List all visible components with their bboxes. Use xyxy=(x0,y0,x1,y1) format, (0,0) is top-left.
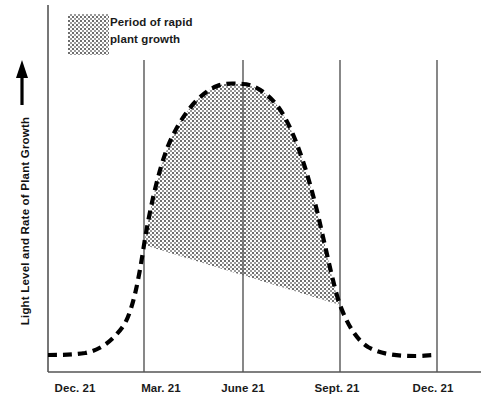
legend-swatch-stipple xyxy=(68,14,109,55)
x-tick-label-3: Sept. 21 xyxy=(315,382,360,394)
x-tick-label-0: Dec. 21 xyxy=(55,382,96,394)
chart-plot-area xyxy=(0,0,491,413)
x-tick-label-1: Mar. 21 xyxy=(141,382,181,394)
legend-label-growth-line2: plant growth xyxy=(110,31,260,48)
x-tick-label-2: June 21 xyxy=(221,382,265,394)
y-axis-label: Light Level and Rate of Plant Growth xyxy=(19,71,31,371)
chart-figure: Period of rapid plant growth Light Level… xyxy=(0,0,491,413)
x-tick-label-4: Dec. 21 xyxy=(413,382,454,394)
legend-label-growth: Period of rapid xyxy=(110,14,260,31)
